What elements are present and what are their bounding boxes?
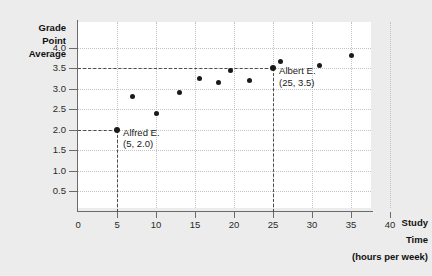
x-axis-title-line: (hours per week) [352, 251, 428, 262]
y-tick-label: 3.0 [30, 83, 66, 94]
gridline-vertical [351, 22, 352, 208]
x-tick-label: 0 [66, 219, 90, 230]
gridline-horizontal [78, 150, 371, 151]
gridline-horizontal [78, 191, 371, 192]
y-tick-label: 1.5 [30, 144, 66, 155]
data-point [349, 53, 354, 58]
x-tick-mark [312, 212, 313, 218]
gridline-vertical [195, 22, 196, 208]
x-tick-label: 20 [222, 219, 246, 230]
x-tick-label: 25 [261, 219, 285, 230]
data-point [197, 76, 202, 81]
x-tick-mark [390, 212, 391, 218]
y-tick-label: 3.5 [30, 62, 66, 73]
guide-line-vertical [273, 68, 274, 212]
plot-area [78, 22, 371, 208]
gridline-horizontal [78, 109, 371, 110]
guide-line-horizontal [78, 130, 118, 131]
y-tick-label: 0.5 [30, 185, 66, 196]
y-tick-mark [69, 48, 77, 49]
annotation-name: Albert E. [279, 65, 315, 77]
annotation-coords: (25, 3.5) [279, 77, 315, 89]
x-tick-label: 40 [378, 219, 402, 230]
x-axis-title-line: Time [406, 234, 428, 245]
gridline-horizontal [78, 89, 371, 90]
y-tick-mark [69, 191, 77, 192]
gridline-vertical [390, 22, 391, 208]
data-point [154, 111, 159, 116]
x-tick-label: 5 [105, 219, 129, 230]
x-axis-title-line: Study [402, 217, 428, 228]
y-tick-mark [69, 89, 77, 90]
data-point-highlighted [114, 127, 120, 133]
data-point [247, 78, 252, 83]
y-tick-mark [69, 171, 77, 172]
y-tick-mark [69, 109, 77, 110]
x-tick-mark [117, 212, 118, 218]
gridline-horizontal [78, 130, 371, 131]
data-point [216, 80, 221, 85]
x-tick-mark [156, 212, 157, 218]
y-axis-title-line: Grade [8, 22, 66, 33]
gridline-horizontal [78, 171, 371, 172]
y-tick-mark [69, 150, 77, 151]
x-tick-label: 35 [339, 219, 363, 230]
y-tick-label: 1.0 [30, 165, 66, 176]
guide-line-horizontal [78, 68, 274, 69]
y-axis-line [77, 20, 78, 212]
gridline-vertical [312, 22, 313, 208]
x-tick-mark [351, 212, 352, 218]
y-tick-label: 2.0 [30, 124, 66, 135]
gridline-vertical [234, 22, 235, 208]
x-tick-mark [273, 212, 274, 218]
chart-root: 0.51.01.52.02.53.03.54.0 051015202530354… [0, 0, 432, 276]
y-tick-mark [69, 130, 77, 131]
x-tick-label: 30 [300, 219, 324, 230]
gridline-horizontal [78, 48, 371, 49]
annotation-alfred: Alfred E.(5, 2.0) [123, 127, 159, 150]
y-tick-label: 2.5 [30, 103, 66, 114]
x-tick-mark [234, 212, 235, 218]
y-axis-title-line: Point [8, 35, 66, 46]
annotation-albert: Albert E.(25, 3.5) [279, 65, 315, 88]
guide-line-vertical [117, 130, 118, 212]
x-axis-line [77, 211, 373, 212]
x-tick-mark [195, 212, 196, 218]
annotation-name: Alfred E. [123, 127, 159, 139]
x-tick-label: 15 [183, 219, 207, 230]
y-tick-mark [69, 68, 77, 69]
annotation-coords: (5, 2.0) [123, 138, 159, 150]
data-point [228, 68, 233, 73]
x-tick-label: 10 [144, 219, 168, 230]
y-axis-title-line: Average [8, 48, 66, 59]
